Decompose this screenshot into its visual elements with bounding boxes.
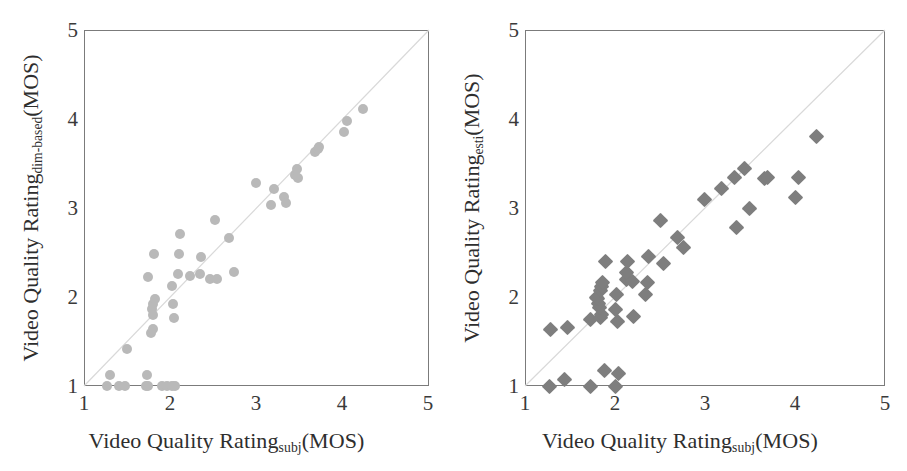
ytick-label: 2 bbox=[489, 287, 519, 308]
x-axis-title: Video Quality Ratingsubj(MOS) bbox=[88, 428, 364, 456]
plot-area-right bbox=[525, 30, 885, 386]
xtick-label: 4 bbox=[327, 393, 357, 414]
xtick-label: 2 bbox=[600, 393, 630, 414]
ytick-label: 4 bbox=[48, 109, 78, 130]
y-axis-title-tail: (MOS) bbox=[459, 73, 484, 135]
y-axis-title-tail: (MOS) bbox=[18, 54, 43, 116]
ytick-label: 2 bbox=[48, 287, 78, 308]
data-point bbox=[175, 229, 185, 239]
data-point bbox=[212, 274, 222, 284]
xtick-label: 3 bbox=[690, 393, 720, 414]
scatter-panel-left: 1 2 3 4 5 5 4 3 2 1 Video Quality Rating… bbox=[0, 0, 453, 471]
xtick-label: 5 bbox=[413, 393, 443, 414]
data-point bbox=[195, 269, 205, 279]
xtick-label: 2 bbox=[155, 393, 185, 414]
x-axis-title-main: Video Quality Rating bbox=[88, 428, 278, 453]
ytick-label: 5 bbox=[48, 20, 78, 41]
scatter-panel-right: 1 2 3 4 5 5 4 3 2 1 Video Quality Rating… bbox=[453, 0, 907, 471]
x-axis-title-tail: (MOS) bbox=[302, 428, 365, 453]
ytick-label: 3 bbox=[48, 198, 78, 219]
ytick-label: 1 bbox=[489, 376, 519, 397]
data-point bbox=[269, 184, 279, 194]
data-point bbox=[293, 173, 303, 183]
y-axis-title-sub: dim-based bbox=[30, 117, 45, 174]
identity-line-left bbox=[84, 30, 429, 386]
data-point bbox=[281, 198, 291, 208]
x-axis-title-sub: subj bbox=[279, 440, 302, 455]
data-point bbox=[143, 381, 153, 391]
y-axis-title: Video Quality Ratingdim-based(MOS) bbox=[18, 54, 46, 361]
ytick-label: 3 bbox=[489, 198, 519, 219]
y-axis-title-sub: esti bbox=[471, 136, 486, 155]
data-point bbox=[148, 324, 158, 334]
ytick-label: 4 bbox=[489, 109, 519, 130]
xtick-label: 4 bbox=[780, 393, 810, 414]
y-axis-title: Video Quality Ratingesti(MOS) bbox=[459, 73, 487, 342]
data-point bbox=[150, 294, 160, 304]
data-point bbox=[292, 164, 302, 174]
plot-area-left bbox=[84, 30, 429, 386]
figure-root: 1 2 3 4 5 5 4 3 2 1 Video Quality Rating… bbox=[0, 0, 907, 471]
data-point bbox=[342, 116, 352, 126]
x-axis-title: Video Quality Ratingsubj(MOS) bbox=[542, 428, 818, 456]
data-point bbox=[251, 178, 261, 188]
data-point bbox=[339, 127, 349, 137]
ytick-label: 5 bbox=[489, 20, 519, 41]
identity-line-right bbox=[525, 30, 885, 386]
data-point bbox=[173, 269, 183, 279]
x-axis-title-main: Video Quality Rating bbox=[542, 428, 732, 453]
data-point bbox=[185, 271, 195, 281]
xtick-label: 5 bbox=[870, 393, 900, 414]
data-point bbox=[120, 381, 130, 391]
xtick-label: 3 bbox=[241, 393, 271, 414]
x-axis-title-tail: (MOS) bbox=[755, 428, 818, 453]
data-point bbox=[168, 299, 178, 309]
data-point bbox=[122, 344, 132, 354]
x-axis-title-sub: subj bbox=[732, 440, 755, 455]
y-axis-title-main: Video Quality Rating bbox=[18, 174, 43, 362]
ytick-label: 1 bbox=[48, 376, 78, 397]
data-point bbox=[170, 381, 180, 391]
data-point bbox=[102, 381, 112, 391]
y-axis-title-main: Video Quality Rating bbox=[459, 155, 484, 343]
